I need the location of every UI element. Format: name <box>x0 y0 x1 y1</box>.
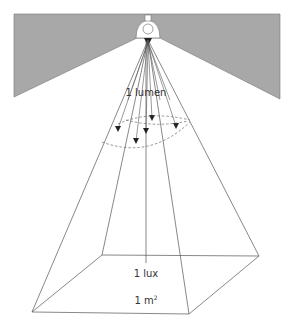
area-label-exponent: 2 <box>154 294 158 301</box>
lumen-label: 1 lumen <box>126 87 167 98</box>
lux-label: 1 lux <box>134 268 159 279</box>
area-label-base: 1 m <box>134 295 153 306</box>
area-label: 1 m2 <box>134 294 157 306</box>
